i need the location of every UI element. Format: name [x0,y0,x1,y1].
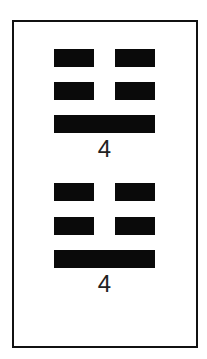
cropped-text-fragment [60,0,207,4]
redacted-wide-field [54,115,155,133]
redacted-field [54,82,94,100]
redacted-field [54,49,94,67]
redacted-field [54,183,94,201]
redacted-wide-field [54,250,155,268]
redacted-field [54,217,94,235]
document-frame [12,20,198,348]
redacted-field [115,183,155,201]
redacted-field [115,49,155,67]
group-number: 4 [54,272,155,296]
redacted-field [115,82,155,100]
group-number: 4 [54,137,155,161]
redacted-field [115,217,155,235]
